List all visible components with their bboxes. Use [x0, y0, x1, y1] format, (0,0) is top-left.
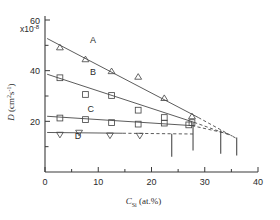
x-tick-label: 0 [42, 177, 47, 187]
curve-label-B: B [90, 67, 96, 77]
y-axis-multiplier: x10-8 [20, 24, 40, 35]
data-point-B [161, 115, 167, 121]
y-tick-label: 40 [30, 66, 40, 76]
y-axis-title: D (cm2s-1) [6, 83, 16, 121]
fit-line-A [47, 38, 198, 117]
diffusion-coefficient-chart: 010203040204060x10-8D (cm2s-1)CSi (at.%)… [0, 0, 280, 220]
data-point-D [56, 132, 63, 138]
curve-label-D: D [75, 131, 82, 141]
fit-line-extrapolated-C [192, 126, 229, 134]
x-tick-label: 30 [200, 177, 210, 187]
data-point-D [107, 133, 114, 139]
fit-line-extrapolated-B [194, 122, 232, 136]
x-tick-label: 10 [93, 177, 103, 187]
x-axis-title: CSi (at.%) [126, 196, 162, 208]
x-tick-label: 40 [253, 177, 263, 187]
data-point-C [161, 120, 167, 126]
y-tick-label: 20 [30, 117, 40, 127]
data-point-C [57, 115, 63, 121]
data-point-D [136, 133, 143, 139]
data-point-A [135, 74, 142, 80]
data-point-B [83, 92, 89, 98]
fit-line-extrapolated-D [123, 133, 193, 134]
fit-line-C [47, 116, 192, 125]
data-point-B [135, 107, 141, 113]
data-point-C [83, 117, 89, 123]
curve-label-A: A [90, 35, 96, 45]
curve-label-C: C [88, 104, 95, 114]
fit-line-B [47, 74, 194, 122]
x-tick-label: 20 [146, 177, 156, 187]
